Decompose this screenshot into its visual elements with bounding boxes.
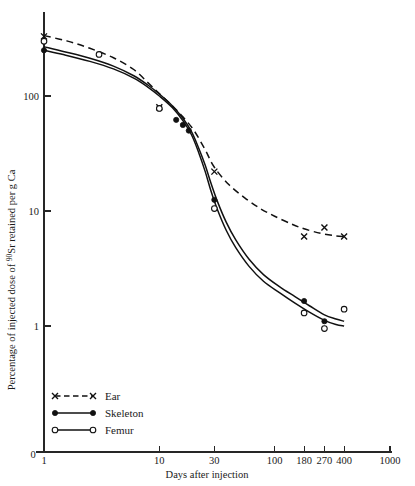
data-point xyxy=(302,298,307,303)
data-point xyxy=(301,310,307,316)
y-axis-title: Percentage of injected dose of 90Sr reta… xyxy=(5,169,18,390)
legend-swatch-marker xyxy=(90,427,96,433)
data-point xyxy=(41,38,47,44)
x-tick-label: 1 xyxy=(41,455,46,466)
x-tick-group: 110301001802704001000 xyxy=(41,446,400,466)
figure-container: Percentage of injected dose of 90Sr reta… xyxy=(0,0,415,486)
legend-label: Ear xyxy=(105,390,121,402)
x-tick-label: 10 xyxy=(154,455,165,466)
data-point xyxy=(322,319,327,324)
legend-label: Skeleton xyxy=(105,407,144,419)
y-tick-label: 100 xyxy=(23,91,39,102)
data-point xyxy=(157,106,163,112)
series-markers-group xyxy=(41,33,347,331)
series-curve-femur xyxy=(44,50,344,326)
series-markers-femur xyxy=(41,38,347,331)
legend-item-femur: Femur xyxy=(52,424,134,436)
x-tick-label: 1000 xyxy=(380,455,401,466)
data-point xyxy=(322,326,328,332)
legend-label: Femur xyxy=(105,424,134,436)
series-curve-skeleton xyxy=(44,47,344,321)
data-point xyxy=(212,197,217,202)
data-point xyxy=(212,206,218,212)
x-tick-label: 180 xyxy=(296,455,312,466)
data-point xyxy=(301,234,307,240)
data-point xyxy=(186,128,191,133)
legend: EarSkeletonFemur xyxy=(52,390,144,436)
legend-item-skeleton: Skeleton xyxy=(52,407,144,419)
data-point xyxy=(341,306,347,312)
legend-swatch-marker xyxy=(52,410,57,415)
legend-swatch-marker xyxy=(52,427,58,433)
legend-swatch-marker xyxy=(90,393,96,399)
data-point xyxy=(321,224,327,230)
data-point xyxy=(180,122,185,127)
x-tick-label: 270 xyxy=(317,455,333,466)
y-tick-label: 10 xyxy=(29,206,40,217)
x-tick-label: 400 xyxy=(336,455,352,466)
y-axis-title-group: Percentage of injected dose of 90Sr reta… xyxy=(5,169,18,390)
series-markers-skeleton xyxy=(41,48,327,324)
strontium-retention-chart: Percentage of injected dose of 90Sr reta… xyxy=(0,0,415,486)
origin-label: 0 xyxy=(30,449,35,460)
data-point xyxy=(211,169,217,175)
legend-swatch-marker xyxy=(90,410,95,415)
data-point xyxy=(41,48,46,53)
data-point xyxy=(174,117,179,122)
x-tick-label: 30 xyxy=(209,455,220,466)
y-tick-group: 110100 xyxy=(23,91,51,332)
x-tick-label: 100 xyxy=(267,455,283,466)
y-tick-label: 1 xyxy=(34,321,39,332)
x-axis-title: Days after injection xyxy=(166,469,250,480)
axes-group xyxy=(36,12,392,452)
legend-item-ear: Ear xyxy=(52,390,121,402)
data-point xyxy=(96,52,102,58)
series-curves-group xyxy=(44,36,344,326)
